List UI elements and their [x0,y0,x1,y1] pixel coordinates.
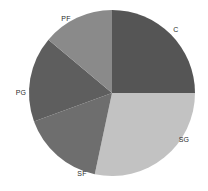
pie-slice-sg[interactable] [95,93,195,176]
pie-slice-group [29,10,195,176]
pie-label-sf: SF [77,170,87,177]
pie-chart-container: CSGSFPGPF [0,0,208,191]
pie-label-pg: PG [16,89,27,96]
pie-label-sg: SG [179,136,190,143]
pie-slice-c[interactable] [112,10,195,93]
pie-label-c: C [173,26,178,33]
pie-label-pf: PF [61,15,71,22]
